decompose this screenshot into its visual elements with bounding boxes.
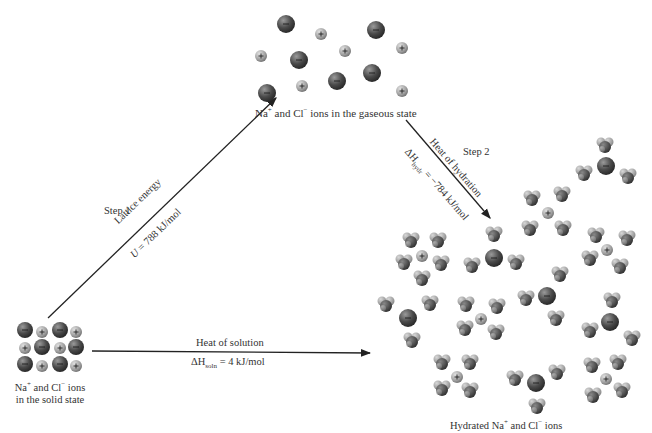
step2-label: Step 2 [463,146,490,158]
step1-arrow [48,98,276,318]
hydrated-state-label: Hydrated Na+ and Cl− ions [450,418,562,432]
solution-arrow [92,351,370,353]
diagram-canvas [0,0,652,433]
solid-lattice [17,322,84,372]
gas-state-label: Na+ and Cl− ions in the gaseous state [255,106,417,119]
solid-state-label: Na+ and Cl− ions in the solid state [4,380,96,406]
gaseous-ions [255,15,408,102]
hydrated-ions [378,138,641,415]
solution-title: Heat of solution [196,337,264,349]
solution-value: ΔHsoln = 4 kJ/mol [191,356,265,370]
